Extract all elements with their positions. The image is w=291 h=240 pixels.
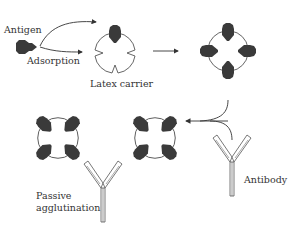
latex-carrier-label: Latex carrier	[90, 79, 153, 90]
aggregate-bead-left	[30, 110, 87, 167]
latex-carrier-single-antigen	[95, 25, 135, 73]
passive-agglutination-label-line2: agglutination	[36, 203, 100, 214]
free-antibody-icon	[213, 135, 251, 196]
adsorption-label: Adsorption	[27, 56, 80, 67]
free-antigen-icon	[16, 40, 37, 54]
adsorption-arrows	[40, 22, 96, 52]
merge-arrow	[186, 100, 232, 140]
antigen-label: Antigen	[4, 25, 42, 36]
passive-agglutination-label-line1: Passive	[36, 191, 71, 202]
coated-latex-carrier	[200, 23, 256, 79]
antibody-label: Antibody	[244, 175, 287, 186]
aggregate-bead-right	[127, 110, 184, 167]
